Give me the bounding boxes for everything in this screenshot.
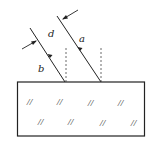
width-d-right-arrow-icon	[62, 15, 68, 20]
hatch-mark: //	[26, 97, 34, 106]
hatch-mark: //	[117, 98, 125, 107]
label-b: b	[38, 63, 44, 74]
diagram-canvas: d a b // // // // // // // //	[0, 0, 156, 148]
ray-a-arrow-icon	[78, 47, 83, 51]
glass-block	[18, 82, 145, 136]
label-a: a	[79, 33, 85, 44]
hatch-mark: //	[37, 117, 45, 126]
hatch-mark: //	[130, 118, 138, 127]
hatch-mark: //	[99, 118, 107, 127]
width-d-left-arrow-icon	[31, 41, 37, 46]
label-d: d	[48, 28, 54, 39]
hatch-mark: //	[56, 97, 64, 106]
glass-hatching: // // // // // // // //	[26, 97, 138, 127]
hatch-mark: //	[67, 117, 75, 126]
hatch-mark: //	[87, 98, 95, 107]
